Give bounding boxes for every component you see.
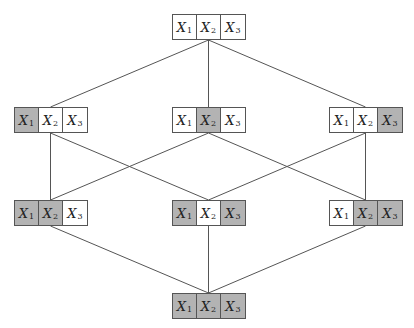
variable-name: X xyxy=(67,113,76,128)
variable-name: X xyxy=(177,299,186,314)
variable-cell-x2: X2 xyxy=(197,201,221,225)
variable-subscript: 2 xyxy=(211,119,216,128)
variable-name: X xyxy=(177,206,186,221)
variable-name: X xyxy=(177,20,186,35)
variable-cell-x2: X2 xyxy=(197,15,221,39)
lattice-node-r2a: X1X2X3 xyxy=(14,200,88,226)
variable-cell-x2: X2 xyxy=(354,201,378,225)
variable-cell-x1: X1 xyxy=(330,201,354,225)
variable-subscript: 2 xyxy=(368,119,373,128)
variable-cell-x3: X3 xyxy=(378,108,402,132)
variable-subscript: 2 xyxy=(368,212,373,221)
variable-cell-x2: X2 xyxy=(39,201,63,225)
variable-cell-x1: X1 xyxy=(173,108,197,132)
variable-subscript: 2 xyxy=(211,305,216,314)
variable-subscript: 1 xyxy=(344,119,349,128)
variable-cell-x2: X2 xyxy=(354,108,378,132)
variable-name: X xyxy=(201,206,210,221)
variable-name: X xyxy=(201,299,210,314)
variable-name: X xyxy=(225,299,234,314)
lattice-node-bot: X1X2X3 xyxy=(172,293,246,319)
variable-name: X xyxy=(67,206,76,221)
variable-subscript: 1 xyxy=(344,212,349,221)
variable-subscript: 3 xyxy=(236,305,241,314)
variable-subscript: 3 xyxy=(393,119,398,128)
variable-name: X xyxy=(225,113,234,128)
variable-subscript: 3 xyxy=(78,212,83,221)
variable-name: X xyxy=(382,206,391,221)
edge-top-r1c xyxy=(209,40,366,107)
variable-cell-x3: X3 xyxy=(221,108,245,132)
variable-cell-x3: X3 xyxy=(221,15,245,39)
variable-name: X xyxy=(334,113,343,128)
variable-cell-x1: X1 xyxy=(173,294,197,318)
variable-name: X xyxy=(358,206,367,221)
lattice-node-top: X1X2X3 xyxy=(172,14,246,40)
variable-name: X xyxy=(201,113,210,128)
variable-name: X xyxy=(225,206,234,221)
variable-subscript: 2 xyxy=(53,212,58,221)
variable-name: X xyxy=(201,20,210,35)
variable-cell-x2: X2 xyxy=(39,108,63,132)
variable-name: X xyxy=(43,206,52,221)
variable-cell-x3: X3 xyxy=(378,201,402,225)
variable-subscript: 1 xyxy=(187,26,192,35)
variable-cell-x1: X1 xyxy=(330,108,354,132)
lattice-node-r1a: X1X2X3 xyxy=(14,107,88,133)
variable-name: X xyxy=(334,206,343,221)
variable-name: X xyxy=(19,206,28,221)
variable-subscript: 1 xyxy=(29,119,34,128)
variable-cell-x1: X1 xyxy=(173,201,197,225)
variable-name: X xyxy=(382,113,391,128)
variable-subscript: 1 xyxy=(29,212,34,221)
variable-subscript: 2 xyxy=(211,26,216,35)
variable-cell-x2: X2 xyxy=(197,108,221,132)
lattice-edges xyxy=(0,0,414,328)
lattice-node-r2c: X1X2X3 xyxy=(329,200,403,226)
variable-subscript: 3 xyxy=(236,212,241,221)
variable-cell-x3: X3 xyxy=(63,201,87,225)
lattice-node-r1c: X1X2X3 xyxy=(329,107,403,133)
variable-name: X xyxy=(43,113,52,128)
edge-top-r1a xyxy=(51,40,209,107)
edge-r2a-bot xyxy=(51,226,209,293)
edge-r2c-bot xyxy=(209,226,366,293)
variable-cell-x3: X3 xyxy=(221,294,245,318)
variable-cell-x2: X2 xyxy=(197,294,221,318)
variable-subscript: 3 xyxy=(393,212,398,221)
variable-subscript: 2 xyxy=(53,119,58,128)
lattice-node-r1b: X1X2X3 xyxy=(172,107,246,133)
variable-subscript: 3 xyxy=(78,119,83,128)
lattice-node-r2b: X1X2X3 xyxy=(172,200,246,226)
variable-subscript: 3 xyxy=(236,119,241,128)
variable-subscript: 1 xyxy=(187,119,192,128)
variable-cell-x1: X1 xyxy=(15,201,39,225)
variable-subscript: 3 xyxy=(236,26,241,35)
variable-subscript: 1 xyxy=(187,212,192,221)
variable-name: X xyxy=(225,20,234,35)
variable-cell-x1: X1 xyxy=(15,108,39,132)
variable-cell-x3: X3 xyxy=(221,201,245,225)
variable-name: X xyxy=(177,113,186,128)
variable-cell-x3: X3 xyxy=(63,108,87,132)
variable-subscript: 1 xyxy=(187,305,192,314)
variable-name: X xyxy=(19,113,28,128)
variable-subscript: 2 xyxy=(211,212,216,221)
variable-name: X xyxy=(358,113,367,128)
variable-cell-x1: X1 xyxy=(173,15,197,39)
